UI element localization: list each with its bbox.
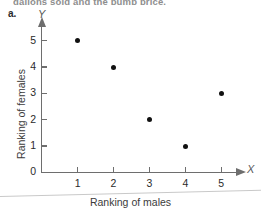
data-point	[219, 91, 224, 96]
y-axis-line	[41, 26, 42, 173]
x-axis-arrow-icon	[236, 168, 246, 176]
x-tick-mark	[221, 167, 222, 173]
x-tick-mark	[185, 167, 186, 173]
x-tick-label: 5	[213, 177, 229, 189]
x-axis-title: Ranking of males	[0, 196, 261, 208]
scatter-plot-figure: gallons sold and the pump price. a. Y X …	[0, 0, 261, 211]
x-tick-label: 4	[177, 177, 193, 189]
x-tick-label: 2	[106, 177, 122, 189]
data-point	[111, 65, 116, 70]
x-tick-mark	[77, 167, 78, 173]
data-point	[75, 38, 80, 43]
y-tick-mark	[41, 145, 47, 146]
y-axis-arrow-icon	[38, 17, 46, 27]
y-tick-mark	[41, 40, 47, 41]
x-tick-mark	[113, 167, 114, 173]
data-point	[147, 117, 152, 122]
x-axis-line	[41, 172, 238, 173]
y-tick-mark	[41, 119, 47, 120]
y-tick-mark	[41, 93, 47, 94]
y-axis-title: Ranking of females	[15, 49, 27, 179]
plot-area: 012345 12345	[0, 0, 261, 211]
x-tick-label: 1	[70, 177, 86, 189]
x-tick-label: 3	[141, 177, 157, 189]
y-tick-mark	[41, 66, 47, 67]
y-tick-label: 5	[22, 34, 36, 46]
data-point	[183, 144, 188, 149]
x-tick-mark	[149, 167, 150, 173]
